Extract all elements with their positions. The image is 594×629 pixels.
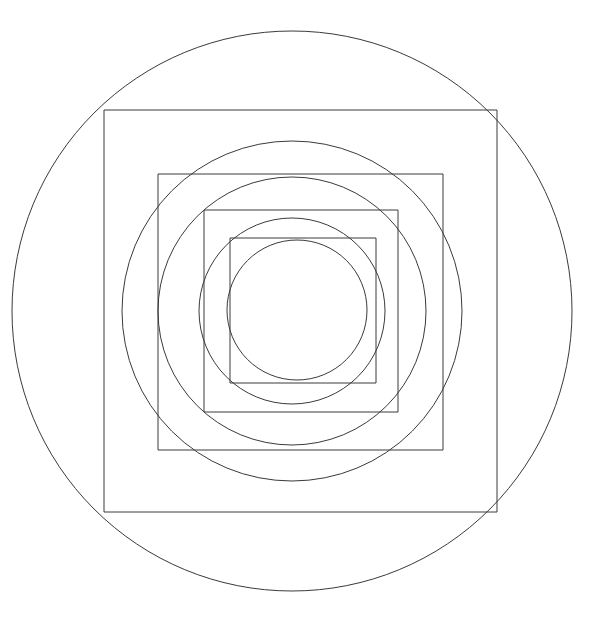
inner-circle: [227, 240, 367, 380]
figure-canvas: [0, 0, 594, 629]
square-4: [230, 238, 376, 383]
circle-2: [122, 141, 462, 481]
circle-3: [158, 177, 426, 445]
shape-layer: [12, 31, 572, 591]
nested-shapes-diagram: [0, 0, 594, 629]
outer-circle: [12, 31, 572, 591]
square-1: [104, 110, 497, 512]
